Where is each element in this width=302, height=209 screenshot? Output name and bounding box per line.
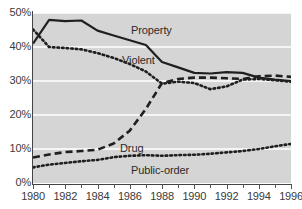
x-axis-tick-1995	[275, 184, 276, 188]
x-axis-tick-1986	[130, 184, 131, 189]
plot-svg	[33, 13, 291, 183]
series-line-drug	[33, 76, 291, 158]
series-label-drug: Drug	[120, 142, 143, 154]
x-axis-tick-1984	[98, 184, 99, 189]
x-axis-tick-1983	[81, 184, 82, 188]
x-axis-tick-1987	[146, 184, 147, 188]
x-axis-tick-1980	[33, 184, 34, 189]
y-axis-label-40pct: 40%	[2, 41, 31, 52]
series-line-violent	[33, 29, 291, 89]
x-axis-tick-1996	[291, 184, 292, 189]
y-axis-label-20pct: 20%	[2, 109, 31, 120]
y-axis-label-0pct: 0%	[2, 177, 31, 188]
y-axis-label-50pct: 50%	[2, 7, 31, 18]
x-axis-tick-1990	[194, 184, 195, 189]
series-label-violent: Violent	[122, 54, 155, 66]
x-axis-tick-1992	[227, 184, 228, 189]
x-axis-tick-1985	[114, 184, 115, 188]
x-axis-tick-1982	[65, 184, 66, 189]
x-axis-tick-1989	[178, 184, 179, 188]
series-lines	[33, 20, 291, 168]
y-axis-label-30pct: 30%	[2, 75, 31, 86]
line-chart: 0%10%20%30%40%50% 1980198219841986198819…	[0, 0, 302, 209]
x-axis-label-1996: 1996	[271, 190, 302, 203]
x-axis-tick-1993	[243, 184, 244, 188]
y-axis-tick-labels: 0%10%20%30%40%50%	[0, 0, 31, 209]
x-axis-tick-1988	[162, 184, 163, 189]
x-axis-tick-labels: 198019821984198619881990199219941996	[0, 190, 302, 206]
y-axis-label-10pct: 10%	[2, 143, 31, 154]
x-axis-tick-1994	[259, 184, 260, 189]
y-axis-line	[32, 11, 33, 185]
plot-area	[33, 13, 291, 183]
x-axis-tick-1981	[49, 184, 50, 188]
series-label-property: Property	[131, 24, 172, 36]
x-axis-tick-1991	[210, 184, 211, 188]
series-label-public-order: Public-order	[131, 164, 189, 176]
